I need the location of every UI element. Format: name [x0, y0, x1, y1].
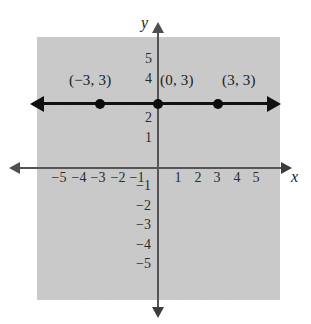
- y-tick-label: 1: [136, 130, 152, 146]
- y-axis-down-arrow-icon: [152, 307, 164, 318]
- x-tick-label: −2: [110, 170, 126, 186]
- x-tick-label: 4: [229, 170, 245, 186]
- y-tick-label: −5: [135, 256, 151, 272]
- y-tick-label: −1: [135, 178, 151, 194]
- x-axis: [18, 167, 283, 169]
- y-tick-label: 4: [136, 71, 152, 87]
- point-label: (−3, 3): [69, 72, 111, 89]
- graphed-line-right-arrow-icon: [267, 96, 281, 112]
- coordinate-plane-figure: y x −5 −4 −3 −2 −1 1 2 3 4 5 5 4 2 1 −1 …: [0, 0, 311, 324]
- x-tick-label: −3: [90, 170, 106, 186]
- x-tick-label: 2: [190, 170, 206, 186]
- x-tick-label: −4: [71, 170, 87, 186]
- y-axis-up-arrow-icon: [152, 22, 164, 33]
- y-tick-label: 2: [136, 110, 152, 126]
- plotted-point: [153, 99, 163, 109]
- graphed-line-left-arrow-icon: [30, 96, 44, 112]
- point-label: (3, 3): [222, 72, 256, 89]
- plotted-point: [95, 99, 105, 109]
- x-axis-left-arrow-icon: [9, 162, 20, 174]
- x-tick-label: 3: [209, 170, 225, 186]
- plotted-point: [213, 99, 223, 109]
- y-axis-label: y: [141, 14, 148, 32]
- point-label: (0, 3): [160, 72, 194, 89]
- y-tick-label: −2: [135, 198, 151, 214]
- x-tick-label: 1: [170, 170, 186, 186]
- y-tick-label: 5: [136, 51, 152, 67]
- y-tick-label: −4: [135, 237, 151, 253]
- y-axis: [157, 32, 159, 309]
- y-tick-label: −3: [135, 217, 151, 233]
- x-axis-label: x: [291, 168, 298, 186]
- x-tick-label: −5: [51, 170, 67, 186]
- x-tick-label: 5: [248, 170, 264, 186]
